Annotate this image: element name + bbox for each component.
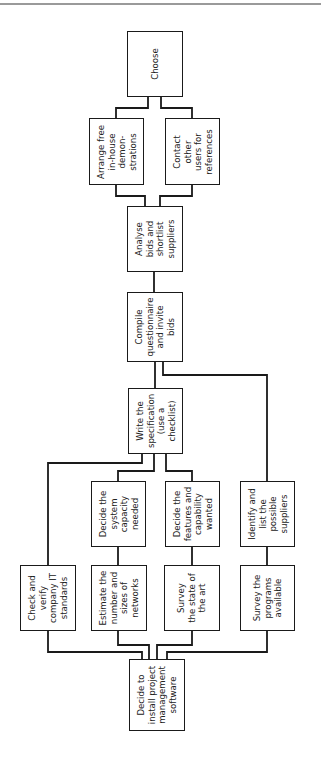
node-write-specification: Write the specification (use a checklist…	[128, 388, 183, 454]
node-arrange-demonstrations: Arrange free in-house demon- strations	[89, 118, 144, 185]
node-label: Arrange free in-house demon- strations	[95, 125, 137, 179]
node-survey-state-of-art: Survey the state of the art	[164, 565, 220, 631]
node-label: Contact other users for references	[171, 129, 213, 175]
node-analyse-bids: Analyse bids and shortlist suppliers	[127, 206, 183, 272]
node-survey-programs: Survey the programs available	[240, 565, 295, 631]
node-label: Survey the programs available	[252, 575, 284, 622]
node-label: Estimate the number and sizes of network…	[98, 571, 140, 626]
node-identify-suppliers: Identify and list the possible suppliers	[240, 481, 295, 547]
node-choose: Choose	[127, 31, 183, 97]
node-decide-features: Decide the features and capability wante…	[165, 481, 220, 547]
node-decide-capacity: Decide the system capacity needed	[91, 481, 146, 547]
node-label: Survey the state of the art	[176, 573, 208, 623]
node-label: Analyse bids and shortlist suppliers	[134, 220, 176, 259]
node-compile-questionnaire: Compile questionnaire and invite bids	[127, 292, 183, 362]
node-label: Decide the system capacity needed	[97, 491, 139, 538]
node-label: Identify and list the possible suppliers	[246, 488, 288, 539]
node-label: Decide the features and capability wante…	[171, 487, 213, 541]
node-label: Check and verify company IT standards	[27, 573, 69, 623]
node-contact-users: Contact other users for references	[165, 118, 220, 185]
node-label: Write the specification (use a checklist…	[134, 394, 176, 448]
node-check-it-standards: Check and verify company IT standards	[20, 565, 76, 631]
node-estimate-networks: Estimate the number and sizes of network…	[91, 565, 147, 631]
connector-lines	[0, 0, 321, 762]
node-decide-install: Decide to install project management sof…	[129, 659, 185, 731]
node-label: Choose	[150, 48, 161, 80]
node-label: Decide to install project management sof…	[136, 666, 178, 724]
node-label: Compile questionnaire and invite bids	[134, 298, 176, 357]
